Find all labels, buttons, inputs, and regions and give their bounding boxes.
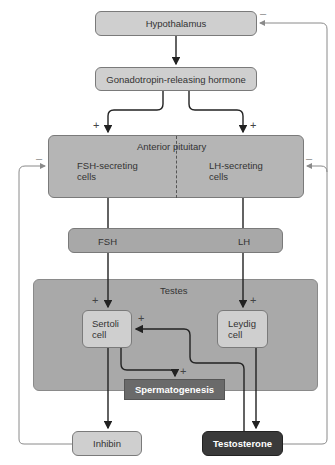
plus-sign-gnrh-lh: + bbox=[250, 120, 256, 131]
lh-cells-label: LH-secreting cells bbox=[209, 160, 279, 183]
plus-sign-gnrh-fsh: + bbox=[93, 120, 99, 131]
anterior-pituitary-label: Anterior pituitary bbox=[137, 141, 206, 152]
leydig-cell-node: Leydig cell bbox=[217, 310, 268, 348]
gonadotropin-bar: FSH LH bbox=[68, 228, 283, 253]
minus-sign-testosterone-pituitary: – bbox=[306, 153, 312, 164]
testes-label: Testes bbox=[160, 285, 187, 296]
inhibin-label: Inhibin bbox=[93, 438, 121, 449]
gnrh-node: Gonadotropin-releasing hormone bbox=[95, 67, 257, 91]
testosterone-label: Testosterone bbox=[213, 438, 272, 449]
testosterone-node: Testosterone bbox=[202, 431, 283, 456]
plus-sign-testosterone-sertoli: + bbox=[138, 313, 144, 324]
plus-sign-spermatogenesis: + bbox=[180, 366, 186, 377]
minus-sign-testosterone-hypothalamus: – bbox=[260, 8, 266, 19]
gnrh-label: Gonadotropin-releasing hormone bbox=[106, 74, 245, 85]
minus-sign-inhibin: – bbox=[36, 153, 42, 164]
hypothalamus-label: Hypothalamus bbox=[146, 18, 207, 29]
anterior-pituitary-node: Anterior pituitary FSH-secreting cells L… bbox=[48, 135, 304, 198]
plus-sign-fsh-sertoli: + bbox=[92, 295, 98, 306]
spermatogenesis-node: Spermatogenesis bbox=[124, 379, 225, 400]
fsh-cells-label: FSH-secreting cells bbox=[77, 160, 157, 183]
lh-label: LH bbox=[238, 236, 250, 247]
inhibin-node: Inhibin bbox=[72, 431, 142, 456]
leydig-label: Leydig cell bbox=[228, 318, 264, 341]
hypothalamus-node: Hypothalamus bbox=[95, 11, 257, 36]
pituitary-divider bbox=[176, 136, 177, 198]
fsh-label: FSH bbox=[98, 236, 117, 247]
testes-region: Testes bbox=[33, 279, 318, 391]
sertoli-label: Sertoli cell bbox=[92, 318, 128, 341]
spermatogenesis-label: Spermatogenesis bbox=[135, 384, 214, 395]
sertoli-cell-node: Sertoli cell bbox=[82, 310, 132, 348]
plus-sign-lh-leydig: + bbox=[250, 295, 256, 306]
